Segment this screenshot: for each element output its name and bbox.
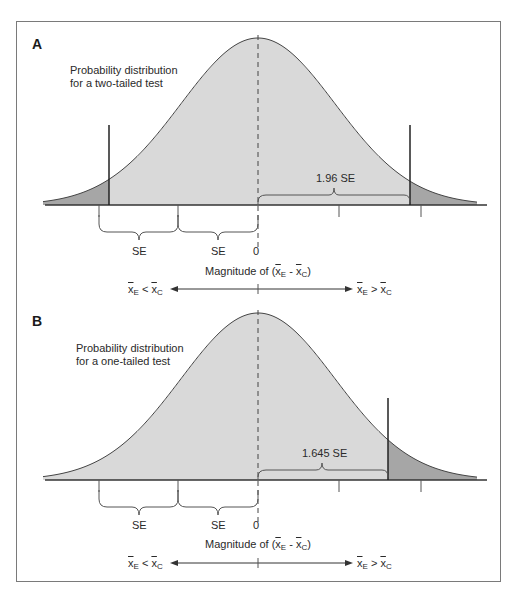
panel-b-se-label-2: SE: [211, 519, 226, 532]
panel-a-letter: A: [32, 36, 42, 52]
panel-b-ticks: [99, 480, 421, 492]
panel-a-critical-label: 1.96 SE: [316, 172, 355, 185]
panel-a-title-line2: for a two-tailed test: [70, 77, 163, 90]
panel-a-direction-right-label: xE > xC: [357, 283, 392, 299]
panel-b-letter: B: [32, 313, 42, 329]
panel-a-brace-se-left: [99, 215, 178, 240]
panel-a-direction-left-label: xE < xC: [128, 283, 163, 299]
panel-b-title-line2: for a one-tailed test: [76, 355, 170, 368]
panel-a-ticks: [99, 205, 421, 217]
panel-b-critical-label: 1.645 SE: [302, 447, 347, 460]
panel-b-brace-se-right: [178, 490, 258, 515]
panel-b-title-line1: Probability distribution: [76, 342, 184, 355]
panel-b-zero-label: 0: [253, 519, 259, 532]
panel-a-brace-se-right: [178, 215, 258, 240]
panel-b-direction-left-label: xE < xC: [128, 557, 163, 573]
panel-a-title-line1: Probability distribution: [70, 64, 178, 77]
panel-a-axis-label: Magnitude of (xE - xC): [205, 265, 311, 281]
panel-b-curve: [43, 313, 477, 480]
panel-a-se-label-2: SE: [211, 245, 226, 258]
distribution-diagram: [0, 0, 521, 609]
panel-a-zero-label: 0: [253, 245, 259, 258]
panel-b-se-label-1: SE: [132, 519, 147, 532]
panel-b-axis-label: Magnitude of (xE - xC): [205, 538, 311, 554]
panel-b-brace-se-left: [99, 490, 178, 515]
panel-a-se-label-1: SE: [132, 245, 147, 258]
panel-b-direction-right-label: xE > xC: [357, 557, 392, 573]
